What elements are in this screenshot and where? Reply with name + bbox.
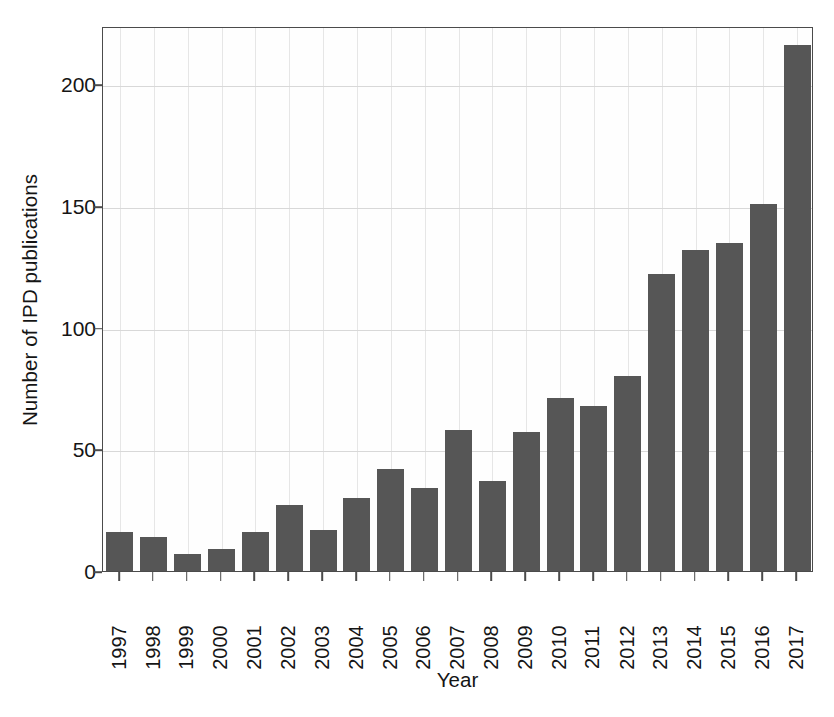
y-tick-mark-100 (93, 328, 102, 330)
x-tick-label-text: 1997 (107, 625, 130, 670)
x-tick-label-text: 2014 (683, 625, 706, 670)
bar-2008 (479, 481, 506, 571)
x-tick-label-2003: 2003 (305, 581, 339, 659)
x-tick-label-1997: 1997 (102, 581, 136, 659)
x-tick-label-text: 2000 (209, 625, 232, 670)
y-tick-label-150: 150 (42, 195, 96, 219)
x-axis-tick-marks (102, 572, 813, 581)
y-tick-label-200: 200 (42, 73, 96, 97)
x-tick-label-2015: 2015 (711, 581, 745, 659)
bar-2002 (276, 505, 303, 571)
y-axis-title-text: Number of IPD publications (18, 174, 42, 426)
x-tick-mark-2006 (423, 572, 425, 581)
x-tick-label-text: 2003 (311, 625, 334, 670)
x-tick-label-text: 2008 (480, 625, 503, 670)
x-tick-mark-2004 (355, 572, 357, 581)
bar-2003 (310, 530, 337, 571)
bar-chart-figure: Number of IPD publications 050100150200 … (0, 0, 834, 717)
x-tick-label-2004: 2004 (339, 581, 373, 659)
x-tick-label-text: 2009 (514, 625, 537, 670)
y-tick-label-100: 100 (42, 317, 96, 341)
x-tick-label-2014: 2014 (678, 581, 712, 659)
x-tick-mark-2015 (728, 572, 730, 581)
y-tick-label-0: 0 (42, 560, 96, 584)
x-tick-mark-2005 (389, 572, 391, 581)
bar-2016 (750, 204, 777, 571)
x-axis-title: Year (102, 668, 813, 692)
x-tick-label-2016: 2016 (745, 581, 779, 659)
x-tick-mark-2008 (491, 572, 493, 581)
x-tick-label-2012: 2012 (610, 581, 644, 659)
y-axis-tick-labels: 050100150200 (42, 0, 96, 717)
bar-2013 (648, 274, 675, 571)
x-tick-label-text: 2005 (378, 625, 401, 670)
bar-2007 (445, 430, 472, 571)
x-tick-label-text: 2006 (412, 625, 435, 670)
x-tick-label-2002: 2002 (271, 581, 305, 659)
bar-2000 (208, 549, 235, 571)
x-tick-label-2017: 2017 (779, 581, 813, 659)
bar-2010 (547, 398, 574, 571)
bar-1999 (174, 554, 201, 571)
x-tick-mark-2013 (660, 572, 662, 581)
x-tick-label-text: 2004 (344, 625, 367, 670)
x-axis-tick-labels: 1997199819992000200120022003200420052006… (102, 581, 813, 661)
x-tick-label-text: 2010 (548, 625, 571, 670)
x-tick-label-text: 2017 (785, 625, 808, 670)
x-tick-label-text: 1999 (175, 625, 198, 670)
x-tick-label-text: 2002 (277, 625, 300, 670)
y-tick-mark-150 (93, 206, 102, 208)
bar-2009 (513, 432, 540, 571)
x-tick-mark-2003 (321, 572, 323, 581)
x-tick-label-2006: 2006 (407, 581, 441, 659)
x-tick-label-2009: 2009 (508, 581, 542, 659)
x-tick-mark-2016 (761, 572, 763, 581)
x-tick-label-text: 2016 (751, 625, 774, 670)
x-tick-mark-2001 (254, 572, 256, 581)
x-tick-label-text: 2001 (243, 625, 266, 670)
x-tick-mark-1998 (152, 572, 154, 581)
x-tick-mark-2014 (694, 572, 696, 581)
y-tick-mark-200 (93, 85, 102, 87)
x-tick-label-text: 2011 (581, 626, 604, 669)
y-tick-mark-50 (93, 450, 102, 452)
x-tick-mark-1997 (118, 572, 120, 581)
bar-2006 (411, 488, 438, 571)
x-tick-mark-2017 (795, 572, 797, 581)
x-tick-mark-2012 (626, 572, 628, 581)
bar-2012 (614, 376, 641, 571)
bar-2001 (242, 532, 269, 571)
x-tick-mark-2009 (524, 572, 526, 581)
bar-2004 (343, 498, 370, 571)
x-tick-label-2008: 2008 (474, 581, 508, 659)
bar-series (103, 28, 812, 571)
x-tick-mark-2010 (558, 572, 560, 581)
bar-2011 (580, 406, 607, 571)
x-tick-label-2010: 2010 (542, 581, 576, 659)
x-tick-label-1998: 1998 (136, 581, 170, 659)
x-tick-label-text: 2007 (446, 625, 469, 670)
x-tick-label-2001: 2001 (237, 581, 271, 659)
bar-2014 (682, 250, 709, 571)
bar-2005 (377, 469, 404, 571)
x-tick-label-2000: 2000 (204, 581, 238, 659)
x-tick-label-1999: 1999 (170, 581, 204, 659)
x-tick-mark-2011 (592, 572, 594, 581)
x-tick-label-2011: 2011 (576, 581, 610, 659)
x-tick-label-text: 2013 (649, 625, 672, 670)
x-tick-mark-2002 (287, 572, 289, 581)
y-tick-mark-0 (93, 571, 102, 573)
x-tick-label-text: 2012 (615, 625, 638, 670)
x-tick-mark-2007 (457, 572, 459, 581)
y-tick-label-50: 50 (42, 438, 96, 462)
bar-2017 (784, 45, 811, 571)
plot-area (102, 27, 813, 572)
x-tick-label-text: 2015 (717, 625, 740, 670)
x-tick-label-2005: 2005 (373, 581, 407, 659)
x-tick-mark-1999 (186, 572, 188, 581)
x-tick-label-text: 1998 (141, 625, 164, 670)
x-tick-mark-2000 (220, 572, 222, 581)
x-tick-label-2007: 2007 (441, 581, 475, 659)
x-tick-label-2013: 2013 (644, 581, 678, 659)
bar-1998 (140, 537, 167, 571)
